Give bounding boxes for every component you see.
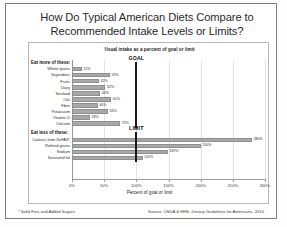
bar: [72, 73, 110, 77]
limit-label: LIMIT: [129, 125, 144, 131]
bar: [72, 115, 90, 119]
bar: [72, 150, 168, 154]
bar-row: Saturated fat110%: [72, 156, 265, 160]
plot-area: Eat more of these:Whole grains15%Vegetab…: [72, 60, 265, 179]
page-title: How Do Typical American Diets Compare to…: [16, 10, 278, 38]
bar-value-label: 40%: [98, 103, 107, 108]
bar-value-label: 61%: [111, 97, 120, 102]
x-axis-tick: [201, 179, 202, 182]
bar: [72, 97, 111, 101]
category-label: Whole grains: [47, 66, 72, 71]
bar-row: Refined grains200%: [72, 144, 265, 148]
x-axis-tick-label: 0%: [69, 183, 75, 188]
title-line-2: Recommended Intake Levels or Limits?: [16, 24, 278, 38]
bar-value-label: 28%: [90, 115, 99, 120]
bar-row: Fiber40%: [72, 103, 265, 107]
category-label: Dairy: [61, 85, 72, 90]
slide-frame: How Do Typical American Diets Compare to…: [5, 3, 277, 219]
x-axis-tick-label: 100%: [131, 183, 141, 188]
category-label: Fiber: [61, 103, 72, 108]
title-line-1: How Do Typical American Diets Compare to: [16, 10, 278, 24]
goal-label: GOAL: [128, 55, 144, 61]
x-axis-tick-label: 250%: [228, 183, 238, 188]
category-label: Calcium: [56, 121, 72, 126]
category-label: Seafood: [56, 91, 73, 96]
bar: [72, 85, 105, 89]
bar-row: Calcium75%: [72, 121, 265, 125]
bar: [72, 156, 143, 160]
x-axis-title: Percent of goal or limit: [29, 190, 270, 195]
bar-value-label: 149%: [168, 149, 179, 154]
chart-container: Usual intake as a percent of goal or lim…: [28, 42, 269, 204]
bar-value-label: 42%: [99, 79, 108, 84]
bar-row: Dairy52%: [72, 85, 265, 89]
x-axis-tick: [104, 179, 105, 182]
bar-row: Vegetables59%: [72, 73, 265, 77]
x-axis-tick-label: 50%: [100, 183, 108, 188]
bar: [72, 109, 108, 113]
x-axis-tick: [233, 179, 234, 182]
bar: [72, 138, 252, 142]
group-heading-eat-more: Eat more of these:: [31, 60, 70, 65]
bar-row: Potassium56%: [72, 109, 265, 113]
category-label: Oils: [63, 97, 72, 102]
x-axis-tick-label: 200%: [195, 183, 205, 188]
category-label: Calories from SoFAS*: [32, 137, 72, 142]
x-axis-tick: [136, 179, 137, 182]
bar: [72, 103, 98, 107]
bar-value-label: 59%: [110, 73, 119, 78]
category-label: Sodium: [57, 149, 72, 154]
category-label: Vegetables: [51, 72, 72, 77]
bar-value-label: 110%: [143, 155, 153, 160]
category-label: Saturated fat: [48, 155, 72, 160]
bar-value-label: 52%: [105, 85, 114, 90]
bar-row: Fruits42%: [72, 79, 265, 83]
goal-reference-line: [135, 62, 137, 128]
limit-reference-line: [135, 132, 137, 162]
category-label: Potassium: [52, 109, 72, 114]
bar-value-label: 56%: [108, 109, 117, 114]
x-axis-tick-label: 150%: [163, 183, 173, 188]
screenshot-page: How Do Typical American Diets Compare to…: [0, 0, 287, 227]
bar-value-label: 75%: [120, 121, 129, 126]
bar-value-label: 44%: [100, 91, 109, 96]
bar: [72, 79, 99, 83]
gridline: [265, 60, 266, 179]
bar-value-label: 200%: [201, 143, 212, 148]
x-axis-tick: [265, 179, 266, 182]
bar-row: Oils61%: [72, 97, 265, 101]
source-citation: Source: USDA & HHS, Dietary Guidelines f…: [148, 209, 264, 214]
bar-value-label: 15%: [82, 67, 91, 72]
category-label: Vitamin D: [53, 115, 72, 120]
footnote: * Solid Fats and Added Sugars: [18, 209, 75, 214]
bar-row: Seafood44%: [72, 91, 265, 95]
bar: [72, 91, 100, 95]
bar-row: Calories from SoFAS*280%: [72, 138, 265, 142]
bar-row: Sodium149%: [72, 150, 265, 154]
bar: [72, 121, 120, 125]
chart-subtitle: Usual intake as a percent of goal or lim…: [29, 47, 270, 52]
category-label: Refined grains: [45, 143, 72, 148]
bar-row: Vitamin D28%: [72, 115, 265, 119]
bar: [72, 67, 82, 71]
x-axis-tick: [169, 179, 170, 182]
bar-value-label: 280%: [252, 137, 263, 142]
group-heading-eat-less: Eat less of these:: [31, 130, 68, 135]
x-axis-tick-label: 300%: [260, 183, 270, 188]
category-label: Fruits: [60, 79, 72, 84]
x-axis-tick: [72, 179, 73, 182]
bar-row: Whole grains15%: [72, 67, 265, 71]
